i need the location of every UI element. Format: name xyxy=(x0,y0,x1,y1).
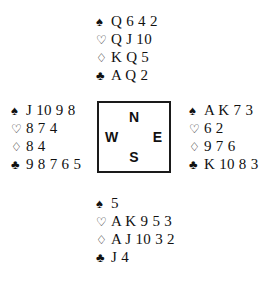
heart-icon: ♡ xyxy=(96,31,109,49)
compass-east-label: E xyxy=(153,130,162,144)
north-diamonds-row: ♢ K Q 5 xyxy=(96,48,158,66)
north-diamonds-cards: K Q 5 xyxy=(109,48,149,66)
hand-north: ♠ Q 6 4 2 ♡ Q J 10 ♢ K Q 5 ♣ A Q 2 xyxy=(96,12,158,84)
east-hearts-cards: 6 2 xyxy=(202,119,224,137)
diamond-icon: ♢ xyxy=(189,138,202,156)
south-hearts-cards: A K 9 5 3 xyxy=(109,212,172,230)
diamond-icon: ♢ xyxy=(11,138,24,156)
hand-west: ♠ J 10 9 8 ♡ 8 7 4 ♢ 8 4 ♣ 9 8 7 6 5 xyxy=(11,101,81,173)
club-icon: ♣ xyxy=(96,67,109,85)
compass-south-label: S xyxy=(99,150,169,164)
east-diamonds-cards: 9 7 6 xyxy=(202,137,236,155)
east-clubs-cards: K 10 8 3 xyxy=(202,155,258,173)
south-diamonds-cards: A J 10 3 2 xyxy=(109,230,175,248)
hand-south: ♠ 5 ♡ A K 9 5 3 ♢ A J 10 3 2 ♣ J 4 xyxy=(96,194,175,266)
east-spades-row: ♠ A K 7 3 xyxy=(189,101,258,119)
south-spades-row: ♠ 5 xyxy=(96,194,175,212)
heart-icon: ♡ xyxy=(11,120,24,138)
east-spades-cards: A K 7 3 xyxy=(202,101,253,119)
north-hearts-row: ♡ Q J 10 xyxy=(96,30,158,48)
west-hearts-cards: 8 7 4 xyxy=(24,119,58,137)
west-clubs-cards: 9 8 7 6 5 xyxy=(24,155,81,173)
south-hearts-row: ♡ A K 9 5 3 xyxy=(96,212,175,230)
east-clubs-row: ♣ K 10 8 3 xyxy=(189,155,258,173)
west-diamonds-row: ♢ 8 4 xyxy=(11,137,81,155)
heart-icon: ♡ xyxy=(96,213,109,231)
spade-icon: ♠ xyxy=(96,195,109,213)
spade-icon: ♠ xyxy=(11,102,24,120)
north-hearts-cards: Q J 10 xyxy=(109,30,152,48)
south-clubs-row: ♣ J 4 xyxy=(96,248,175,266)
south-clubs-cards: J 4 xyxy=(109,248,129,266)
spade-icon: ♠ xyxy=(96,13,109,31)
south-spades-cards: 5 xyxy=(109,194,119,212)
club-icon: ♣ xyxy=(96,249,109,267)
diamond-icon: ♢ xyxy=(96,49,109,67)
diamond-icon: ♢ xyxy=(96,231,109,249)
south-diamonds-row: ♢ A J 10 3 2 xyxy=(96,230,175,248)
north-spades-cards: Q 6 4 2 xyxy=(109,12,158,30)
west-spades-cards: J 10 9 8 xyxy=(24,101,76,119)
compass-west-label: W xyxy=(105,130,118,144)
club-icon: ♣ xyxy=(11,156,24,174)
west-spades-row: ♠ J 10 9 8 xyxy=(11,101,81,119)
west-clubs-row: ♣ 9 8 7 6 5 xyxy=(11,155,81,173)
north-clubs-cards: A Q 2 xyxy=(109,66,148,84)
compass-north-label: N xyxy=(99,110,169,124)
east-hearts-row: ♡ 6 2 xyxy=(189,119,258,137)
north-spades-row: ♠ Q 6 4 2 xyxy=(96,12,158,30)
west-diamonds-cards: 8 4 xyxy=(24,137,46,155)
spade-icon: ♠ xyxy=(189,102,202,120)
compass-box: N W E S xyxy=(97,101,171,173)
north-clubs-row: ♣ A Q 2 xyxy=(96,66,158,84)
club-icon: ♣ xyxy=(189,156,202,174)
west-hearts-row: ♡ 8 7 4 xyxy=(11,119,81,137)
bridge-deal-diagram: ♠ Q 6 4 2 ♡ Q J 10 ♢ K Q 5 ♣ A Q 2 ♠ J 1… xyxy=(0,0,274,283)
hand-east: ♠ A K 7 3 ♡ 6 2 ♢ 9 7 6 ♣ K 10 8 3 xyxy=(189,101,258,173)
heart-icon: ♡ xyxy=(189,120,202,138)
east-diamonds-row: ♢ 9 7 6 xyxy=(189,137,258,155)
